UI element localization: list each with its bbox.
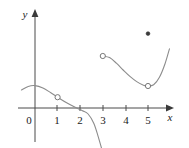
open-point-left-branch [55, 95, 60, 100]
curve-right-branch [103, 49, 170, 86]
tick-label-5: 5 [145, 114, 151, 126]
marker-group [55, 32, 151, 148]
open-point-right-branch-minimum [145, 83, 150, 88]
curve-left-branch [21, 86, 102, 148]
graph-figure: y x 0 1 2 3 4 5 [0, 0, 189, 148]
y-axis-arrowhead [32, 9, 39, 17]
open-endpoint-right-branch-start [100, 53, 105, 58]
tick-label-2: 2 [77, 114, 83, 126]
tick-label-4: 4 [123, 114, 129, 126]
coordinate-plane: y x 0 1 2 3 4 5 [0, 0, 189, 148]
curve-group [21, 49, 169, 148]
y-axis-label: y [22, 8, 28, 20]
x-axis-label: x [167, 111, 173, 123]
isolated-closed-point [146, 32, 150, 36]
tick-label-0: 0 [26, 114, 32, 126]
tick-label-1: 1 [54, 114, 60, 126]
x-tick-labels: 0 1 2 3 4 5 [26, 114, 151, 126]
tick-label-3: 3 [100, 114, 106, 126]
